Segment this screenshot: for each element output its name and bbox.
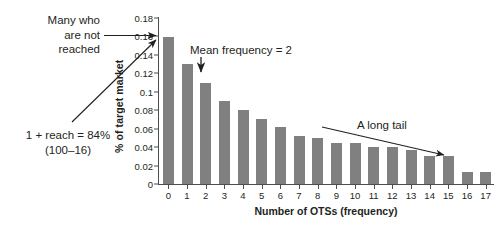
annotation-mean-frequency: Mean frequency = 2 [190, 44, 292, 56]
y-tick-label: 0.1 [140, 86, 153, 97]
bar-4 [238, 110, 249, 184]
bar-10 [350, 143, 361, 185]
annotation-line: 1 + reach = 84% [14, 128, 122, 143]
x-tick-label: 14 [424, 190, 435, 201]
x-tick-mark [168, 185, 169, 189]
x-tick-mark [355, 185, 356, 189]
x-tick-mark [224, 185, 225, 189]
bar-15 [443, 156, 454, 184]
x-tick-label: 11 [369, 190, 379, 201]
x-tick-mark [187, 185, 188, 189]
x-tick-mark [206, 185, 207, 189]
y-tick-label: 0.04 [135, 142, 154, 153]
bar-11 [368, 147, 379, 184]
x-tick-mark [392, 185, 393, 189]
plot-area [158, 18, 494, 184]
annotation-line: Many who [8, 13, 100, 28]
y-tick-label: 0.18 [135, 13, 154, 24]
x-tick-label: 17 [480, 190, 491, 201]
bar-13 [406, 150, 417, 184]
bar-0 [163, 37, 174, 184]
x-tick-mark [262, 185, 263, 189]
x-tick-label: 9 [334, 190, 339, 201]
x-tick-mark [280, 185, 281, 189]
bar-17 [480, 172, 491, 184]
x-tick-label: 1 [184, 190, 189, 201]
x-tick-label: 8 [315, 190, 320, 201]
x-axis-title: Number of OTSs (frequency) [158, 205, 494, 217]
x-tick-label: 13 [406, 190, 417, 201]
x-tick-label: 4 [240, 190, 245, 201]
y-axis-title: % of target market [113, 46, 129, 166]
bar-9 [331, 143, 342, 185]
bar-3 [219, 101, 230, 184]
x-tick-mark [374, 185, 375, 189]
bar-14 [424, 156, 435, 184]
y-tick-label: 0 [148, 179, 153, 190]
bar-2 [200, 83, 211, 184]
annotation-line: are not [8, 28, 100, 43]
x-tick-label: 6 [278, 190, 283, 201]
x-tick-label: 16 [462, 190, 473, 201]
y-tick-label: 0.06 [135, 123, 154, 134]
annotation-line: (100–16) [14, 143, 122, 158]
x-tick-mark [486, 185, 487, 189]
x-tick-mark [318, 185, 319, 189]
annotation-many-who-are-not-reached: Many who are not reached [8, 13, 100, 57]
x-tick-mark [467, 185, 468, 189]
bar-chart-figure: Many who are not reached 1 + reach = 84%… [0, 0, 503, 230]
x-tick-mark [336, 185, 337, 189]
x-tick-label: 10 [350, 190, 361, 201]
bar-1 [182, 64, 193, 184]
y-tick-label: 0.08 [135, 105, 154, 116]
x-tick-mark [243, 185, 244, 189]
x-tick-label: 5 [259, 190, 264, 201]
x-tick-mark [299, 185, 300, 189]
annotation-one-plus-reach: 1 + reach = 84% (100–16) [14, 128, 122, 157]
annotation-a-long-tail: A long tail [357, 119, 407, 131]
y-tick-label: 0.16 [135, 31, 154, 42]
x-tick-label: 15 [443, 190, 454, 201]
bar-5 [256, 119, 267, 184]
x-tick-mark [448, 185, 449, 189]
bar-16 [462, 172, 473, 184]
y-tick-label: 0.02 [135, 160, 154, 171]
x-tick-label: 7 [296, 190, 301, 201]
x-tick-mark [411, 185, 412, 189]
bar-8 [312, 138, 323, 184]
annotation-line: reached [8, 42, 100, 57]
x-tick-label: 3 [222, 190, 227, 201]
y-tick-label: 0.12 [135, 68, 154, 79]
x-tick-label: 0 [166, 190, 171, 201]
bar-12 [387, 147, 398, 184]
x-tick-label: 12 [387, 190, 398, 201]
bar-6 [275, 127, 286, 184]
y-tick-label: 0.14 [135, 49, 154, 60]
x-tick-label: 2 [203, 190, 208, 201]
bar-7 [294, 136, 305, 184]
x-tick-mark [430, 185, 431, 189]
